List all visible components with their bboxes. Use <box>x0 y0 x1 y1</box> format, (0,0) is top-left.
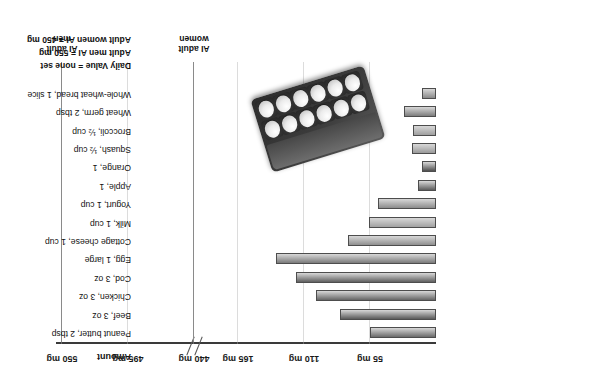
x-tick-label: 110 mg <box>289 354 320 364</box>
bar <box>316 290 436 301</box>
footnote-block: Daily Value = none setAdult men AI = 550… <box>27 33 131 72</box>
x-tick-label: 165 mg <box>222 354 253 364</box>
bar-category-label: Cottage cheese, 1 cup <box>45 237 131 247</box>
bar <box>296 272 436 283</box>
bar <box>422 161 436 172</box>
bar-row: Yogurt, 1 cup <box>0 196 593 211</box>
bar <box>369 217 436 228</box>
footnote-line: Daily Value = none set <box>27 59 131 72</box>
bar-row: Peanut butter, 2 tbsp <box>0 325 593 340</box>
bar <box>348 235 436 246</box>
bar-row: Chicken, 3 oz <box>0 288 593 303</box>
bar-category-label: Orange, 1 <box>93 163 131 173</box>
bar-row: Milk, 1 cup <box>0 215 593 230</box>
bar-category-label: Cod, 3 oz <box>94 274 131 284</box>
bar-category-label: Yogurt, 1 cup <box>81 200 131 210</box>
x-tick-label: 550 mg <box>46 354 77 364</box>
footnote-line: Adult women AI = 450 mg <box>27 33 131 46</box>
bar-row: Cottage cheese, 1 cup <box>0 233 593 248</box>
bar-category-label: Egg, 1 large <box>85 255 131 265</box>
bar <box>422 88 436 99</box>
bar-row: Cod, 3 oz <box>0 270 593 285</box>
bar-row: Beef, 3 oz <box>0 307 593 322</box>
bar-category-label: Beef, 3 oz <box>92 311 131 321</box>
bar-category-label: Wheat germ, 2 tbsp <box>56 108 131 118</box>
bar <box>404 106 436 117</box>
rotated-figure: 55 mg110 mg165 mg440 mg495 mg550 mg AI a… <box>0 0 593 372</box>
footnote-line: Adult men AI = 550 mg <box>27 46 131 59</box>
bar-category-label: Whole-wheat bread, 1 slice <box>27 90 131 100</box>
bar <box>418 180 436 191</box>
bar-category-label: Squash, ½ cup <box>74 145 131 155</box>
x-tick-label: 55 mg <box>357 354 383 364</box>
bar-category-label: Broccoli, ½ cup <box>72 127 131 137</box>
bar <box>412 143 436 154</box>
bar-category-label: Chicken, 3 oz <box>79 292 131 302</box>
bar-category-label: Milk, 1 cup <box>90 219 131 229</box>
amount-column-header: Amount <box>97 352 131 362</box>
reference-line-label: AI adultwomen <box>178 34 209 54</box>
bar <box>378 198 436 209</box>
bar <box>276 253 436 264</box>
x-axis-line <box>56 342 436 344</box>
bar <box>413 125 436 136</box>
bar-row: Apple, 1 <box>0 178 593 193</box>
bar-row: Egg, 1 large <box>0 251 593 266</box>
bar-category-label: Apple, 1 <box>99 182 131 192</box>
bar-category-label: Peanut butter, 2 tbsp <box>52 329 131 339</box>
bar <box>340 309 436 320</box>
bar <box>370 327 436 338</box>
